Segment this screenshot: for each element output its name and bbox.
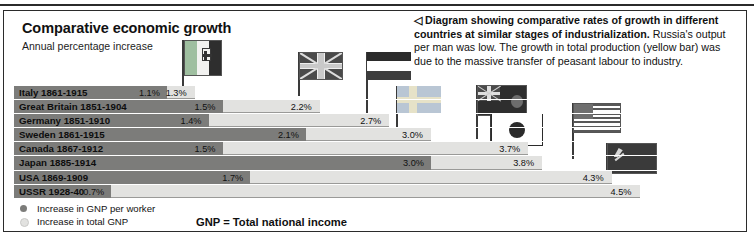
chart-row-label: USA 1869-1909: [19, 171, 88, 184]
chart-row-label: USSR 1928-40: [19, 185, 84, 198]
value-label-per-worker: 1.5%: [195, 142, 216, 155]
value-label-per-worker: 3.0%: [403, 156, 424, 169]
caption-block: ◁Diagram showing comparative rates of gr…: [414, 14, 740, 68]
value-label-per-worker: 1.1%: [139, 86, 160, 99]
legend-swatch-total-icon: [20, 218, 29, 227]
chart-row: Japan 1885-19143.0%3.8%: [14, 156, 736, 170]
value-label-total: 4.3%: [583, 171, 604, 184]
chart-row: Great Britain 1851-19041.5%2.2%: [14, 100, 736, 114]
value-label-total: 2.7%: [360, 114, 381, 127]
chart-row-label: Japan 1885-1914: [19, 156, 96, 169]
caption-triangle-icon: ◁: [414, 14, 422, 26]
value-label-per-worker: 1.5%: [195, 100, 216, 113]
bar-chart: Italy 1861-19151.1%1.3%Great Britain 185…: [14, 86, 736, 199]
flag-italy: [182, 38, 222, 88]
value-label-per-worker: 1.4%: [181, 114, 202, 127]
legend-item-total: Increase in total GNP: [18, 215, 155, 228]
value-label-total: 3.0%: [402, 128, 423, 141]
chart-row-label: Sweden 1861-1915: [19, 128, 105, 141]
chart-row: USA 1869-19091.7%4.3%: [14, 171, 736, 185]
chart-row: Canada 1867-19121.5%3.7%: [14, 142, 736, 156]
chart-row: Germany 1851-19101.4%2.7%: [14, 114, 736, 128]
chart-row-label: Canada 1867-1912: [19, 142, 103, 155]
legend-label-worker: Increase in GNP per worker: [37, 203, 155, 214]
legend-label-total: Increase in total GNP: [37, 216, 128, 227]
value-label-per-worker: 1.7%: [222, 171, 243, 184]
value-label-total: 3.8%: [513, 156, 534, 169]
value-label-total: 1.3%: [166, 86, 187, 99]
value-label-per-worker: 2.1%: [278, 128, 299, 141]
value-label-total: 2.2%: [291, 100, 312, 113]
chart-legend: Increase in GNP per worker Increase in t…: [18, 202, 155, 228]
chart-row-label: Italy 1861-1915: [19, 86, 87, 99]
economic-growth-figure: Comparative economic growth Annual perce…: [0, 0, 754, 243]
value-label-total: 4.5%: [611, 185, 632, 198]
chart-row: Italy 1861-19151.1%1.3%: [14, 86, 736, 100]
top-rule: [0, 4, 754, 6]
chart-subtitle: Annual percentage increase: [22, 40, 153, 52]
legend-item-worker: Increase in GNP per worker: [18, 202, 155, 215]
legend-swatch-worker-icon: [20, 205, 27, 212]
gnp-definition-note: GNP = Total national income: [196, 216, 347, 228]
value-label-per-worker: 0.7%: [83, 185, 104, 198]
chart-row-label: Germany 1851-1910: [19, 114, 110, 127]
chart-row: USSR 1928-400.7%4.5%: [14, 185, 736, 199]
value-label-total: 3.7%: [499, 142, 520, 155]
page-title: Comparative economic growth: [22, 20, 231, 36]
chart-row-label: Great Britain 1851-1904: [19, 100, 127, 113]
chart-row: Sweden 1861-19152.1%3.0%: [14, 128, 736, 142]
